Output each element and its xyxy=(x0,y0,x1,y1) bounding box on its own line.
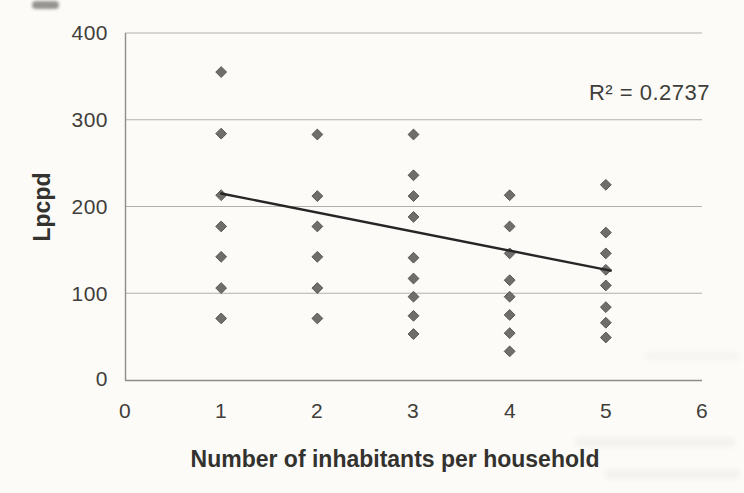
data-point xyxy=(312,313,323,324)
data-point xyxy=(408,191,419,202)
data-point xyxy=(216,251,227,262)
x-tick-label: 1 xyxy=(191,398,251,424)
x-tick-label: 4 xyxy=(480,398,540,424)
x-tick-label: 6 xyxy=(672,398,732,424)
data-point xyxy=(600,280,611,291)
y-tick-label: 100 xyxy=(38,281,108,307)
x-tick-label: 0 xyxy=(95,398,155,424)
data-point xyxy=(600,179,611,190)
data-point xyxy=(408,310,419,321)
data-point xyxy=(600,332,611,343)
data-point xyxy=(600,227,611,238)
data-point xyxy=(504,275,515,286)
data-point xyxy=(408,212,419,223)
data-point xyxy=(312,283,323,294)
data-point xyxy=(216,67,227,78)
data-point xyxy=(312,191,323,202)
x-tick-label: 2 xyxy=(287,398,347,424)
data-point xyxy=(600,248,611,259)
data-point xyxy=(216,221,227,232)
data-point xyxy=(504,221,515,232)
data-point xyxy=(216,283,227,294)
x-axis-title: Number of inhabitants per household xyxy=(191,446,600,473)
data-point xyxy=(216,313,227,324)
data-point xyxy=(408,273,419,284)
data-point xyxy=(504,346,515,357)
x-tick-label: 3 xyxy=(383,398,443,424)
y-axis-title: Lpcpd xyxy=(29,173,56,242)
data-point xyxy=(504,190,515,201)
y-tick-label: 400 xyxy=(38,20,108,46)
y-tick-label: 300 xyxy=(38,107,108,133)
r-squared-annotation: R² = 0.2737 xyxy=(589,80,710,106)
y-tick-label: 0 xyxy=(38,366,108,392)
data-point xyxy=(312,251,323,262)
x-tick-label: 5 xyxy=(576,398,636,424)
data-point xyxy=(504,310,515,321)
data-point xyxy=(600,302,611,313)
data-point xyxy=(408,170,419,181)
data-point xyxy=(312,129,323,140)
data-point xyxy=(216,128,227,139)
data-point xyxy=(408,252,419,263)
data-point xyxy=(408,329,419,340)
data-point xyxy=(600,317,611,328)
scatter-chart-figure: 400 300 200 100 0 0 1 2 3 4 5 6 Lpcpd Nu… xyxy=(0,0,744,493)
data-point xyxy=(408,129,419,140)
data-point xyxy=(504,328,515,339)
data-point xyxy=(312,221,323,232)
